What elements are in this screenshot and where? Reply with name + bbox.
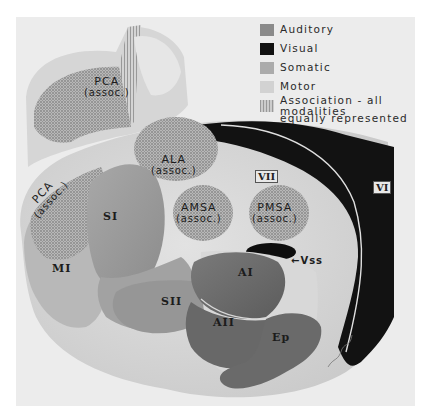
legend-label-continued: equally represented [260, 113, 415, 124]
pmsa-label: PMSA (assoc.) [252, 202, 298, 224]
legend: Auditory Visual Somatic Motor Associatio… [260, 20, 415, 124]
sii-label: SII [161, 296, 182, 307]
legend-item-auditory: Auditory [260, 20, 415, 39]
ai-label: AI [238, 267, 254, 278]
vii-label: VII [255, 170, 278, 183]
somatic-swatch-icon [260, 62, 274, 74]
association-swatch-icon [260, 100, 274, 112]
visual-swatch-icon [260, 43, 274, 55]
legend-label: Motor [280, 81, 316, 92]
ala-label: ALA (assoc.) [151, 154, 197, 176]
si-label: SI [103, 211, 118, 222]
legend-label: Somatic [280, 62, 331, 73]
aii-label: AII [213, 317, 235, 328]
vss-label: ←Vss [291, 255, 323, 266]
mi-label: MI [52, 263, 71, 274]
amsa-label: AMSA (assoc.) [176, 202, 222, 224]
legend-item-somatic: Somatic [260, 58, 415, 77]
ep-label: Ep [272, 332, 290, 343]
auditory-swatch-icon [260, 24, 274, 36]
legend-label: Auditory [280, 24, 334, 35]
legend-item-visual: Visual [260, 39, 415, 58]
legend-label: Visual [280, 43, 319, 54]
vi-label: VI [373, 181, 391, 194]
brain-cortex-diagram: Auditory Visual Somatic Motor Associatio… [16, 17, 415, 406]
inset-pca-label: PCA (assoc.) [84, 76, 130, 98]
motor-swatch-icon [260, 81, 274, 93]
